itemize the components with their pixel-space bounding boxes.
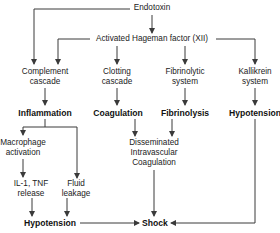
node-fluid-leakage: Fluid leakage bbox=[62, 179, 91, 199]
node-label: Clotting bbox=[102, 67, 133, 77]
node-il1-tnf-release: IL-1, TNF release bbox=[14, 179, 48, 199]
edge-hypotension-right-shock bbox=[171, 119, 255, 223]
node-complement-cascade: Complement cascade bbox=[22, 67, 68, 87]
node-label: Complement bbox=[22, 67, 68, 77]
node-label: Hypotension bbox=[229, 108, 280, 118]
node-label: Activated Hageman factor (XII) bbox=[96, 34, 208, 43]
node-label: leakage bbox=[62, 189, 91, 199]
node-label: activation bbox=[0, 148, 46, 158]
node-macrophage-activation: Macrophage activation bbox=[0, 138, 46, 158]
node-kallikrein-system: Kallikrein system bbox=[238, 67, 271, 87]
edge-hageman-complement bbox=[58, 39, 90, 64]
node-label: Inflammation bbox=[18, 108, 71, 118]
node-label: release bbox=[14, 189, 48, 199]
node-label: Disseminated bbox=[129, 138, 179, 148]
node-label: system bbox=[165, 77, 204, 87]
node-label: Hypotension bbox=[24, 218, 76, 228]
node-label: cascade bbox=[102, 77, 133, 87]
edge-inflammation-split bbox=[45, 119, 77, 127]
node-label: Fibrinolysis bbox=[161, 108, 209, 118]
node-label: Macrophage bbox=[0, 138, 46, 148]
node-shock: Shock bbox=[142, 218, 168, 228]
node-label: Fluid bbox=[62, 179, 91, 189]
node-label: IL-1, TNF bbox=[14, 179, 48, 189]
node-clotting-cascade: Clotting cascade bbox=[102, 67, 133, 87]
node-hageman-factor: Activated Hageman factor (XII) bbox=[96, 34, 208, 44]
node-label: Coagulation bbox=[129, 158, 179, 168]
node-hypotension-kallikrein: Hypotension bbox=[229, 108, 280, 118]
node-label: Coagulation bbox=[93, 108, 143, 118]
node-dic: Disseminated Intravascular Coagulation bbox=[129, 138, 179, 168]
node-inflammation: Inflammation bbox=[18, 108, 71, 118]
node-endotoxin: Endotoxin bbox=[134, 3, 170, 13]
node-label: Kallikrein bbox=[238, 67, 271, 77]
node-hypotension: Hypotension bbox=[24, 218, 76, 228]
node-label: Shock bbox=[142, 218, 168, 228]
node-coagulation: Coagulation bbox=[93, 108, 143, 118]
node-label: cascade bbox=[22, 77, 68, 87]
node-label: Intravascular bbox=[129, 148, 179, 158]
node-fibrinolytic-system: Fibrinolytic system bbox=[165, 67, 204, 87]
node-label: system bbox=[238, 77, 271, 87]
edge-hageman-kallikrein bbox=[216, 39, 255, 64]
node-label: Endotoxin bbox=[134, 3, 170, 12]
node-label: Fibrinolytic bbox=[165, 67, 204, 77]
edge-inflammation-macrophage bbox=[23, 127, 45, 135]
node-fibrinolysis: Fibrinolysis bbox=[161, 108, 209, 118]
